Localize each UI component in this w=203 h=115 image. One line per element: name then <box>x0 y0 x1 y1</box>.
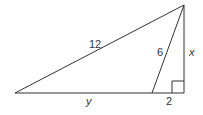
label-hypotenuse: 12 <box>89 38 101 50</box>
label-left-segment: y <box>85 95 93 107</box>
triangle-diagram: 12 6 x y 2 <box>0 0 203 115</box>
right-angle-marker <box>172 81 184 93</box>
label-height: x <box>188 46 195 58</box>
label-cevian: 6 <box>157 46 163 58</box>
label-right-segment: 2 <box>166 95 172 107</box>
